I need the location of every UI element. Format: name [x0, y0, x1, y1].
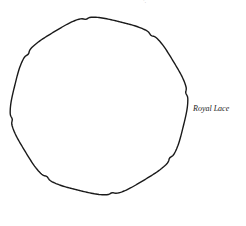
pattern-label: Royal Lace: [193, 104, 229, 113]
plate-outline: [0, 0, 246, 226]
top-mark: ·,: [143, 0, 146, 3]
scalloped-plate-shape: [10, 17, 188, 195]
